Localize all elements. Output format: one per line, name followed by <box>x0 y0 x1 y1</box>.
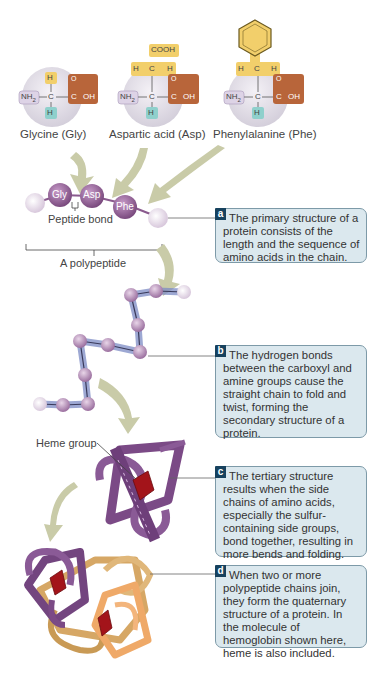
nh2-text: NH <box>21 92 33 101</box>
subscript-2: 2 <box>132 97 135 103</box>
asp-cooh: COOH <box>151 45 175 54</box>
asp-side-h-left: H <box>133 64 139 73</box>
phe-alpha-c: C <box>255 92 261 101</box>
quaternary-structure <box>28 551 215 655</box>
callout-a-primary-structure: aThe primary structure of a protein cons… <box>215 208 367 263</box>
asp-bottom-h: H <box>148 108 154 117</box>
gly-side-h: H <box>47 73 53 82</box>
asp-alpha-c: C <box>149 92 155 101</box>
phe-oh: OH <box>288 92 300 101</box>
gly-alpha-c: C <box>48 92 54 101</box>
phe-side-c: C <box>254 64 260 73</box>
amino-acid-label-phenylalanine: Phenylalanine (Phe) <box>213 128 317 140</box>
phe-o: O <box>276 75 281 82</box>
asp-amine: NH2 <box>120 92 135 103</box>
secondary-chain <box>33 284 215 412</box>
callout-badge-b: b <box>215 345 226 357</box>
arrow-to-quaternary <box>44 482 78 542</box>
asp-o: O <box>171 75 176 82</box>
arrow-to-tertiary <box>98 378 140 434</box>
bead-label-phe: Phe <box>116 201 134 212</box>
phe-bottom-h: H <box>254 108 260 117</box>
callout-d-quaternary-structure: dWhen two or more polypeptide chains joi… <box>215 565 367 648</box>
callout-badge-c: c <box>215 466 226 478</box>
asp-side-h-right: H <box>167 64 173 73</box>
phe-side-h-right: H <box>271 64 277 73</box>
callout-b-secondary-structure: bThe hydrogen bonds between the carboxyl… <box>215 345 367 438</box>
nh2-text: NH <box>226 92 238 101</box>
gly-o: O <box>71 75 76 82</box>
subscript-2: 2 <box>33 97 36 103</box>
gly-carboxyl-c: C <box>71 92 77 101</box>
phe-amine: NH2 <box>226 92 241 103</box>
polypeptide-label: A polypeptide <box>60 257 126 269</box>
callout-text-a: The primary structure of a protein consi… <box>223 212 359 263</box>
callout-text-b: The hydrogen bonds between the carboxyl … <box>223 349 352 439</box>
phe-carboxyl-c: C <box>276 92 282 101</box>
callout-badge-a: a <box>215 208 226 220</box>
gly-amine: NH2 <box>21 92 36 103</box>
subscript-2: 2 <box>238 97 241 103</box>
aspartic-acid-structure <box>118 44 199 127</box>
gly-oh: OH <box>83 92 95 101</box>
phe-side-h-left: H <box>238 64 244 73</box>
phenylalanine-structure <box>224 20 304 127</box>
bead-label-asp: Asp <box>83 189 100 200</box>
asp-side-c: C <box>149 64 155 73</box>
amino-acid-label-aspartic-acid: Aspartic acid (Asp) <box>109 128 206 140</box>
gly-bottom-h: H <box>47 108 53 117</box>
callout-text-c: The tertiary structure results when the … <box>223 470 353 560</box>
tertiary-structure <box>97 442 215 540</box>
amino-acid-label-glycine: Glycine (Gly) <box>20 128 86 140</box>
nh2-text: NH <box>120 92 132 101</box>
bead-label-gly: Gly <box>52 189 67 200</box>
callout-badge-d: d <box>215 565 226 577</box>
heme-group-label: Heme group <box>36 437 97 449</box>
callout-text-d: When two or more polypeptide chains join… <box>223 569 346 659</box>
callout-c-tertiary-structure: cThe tertiary structure results when the… <box>215 466 367 557</box>
asp-oh: OH <box>183 92 195 101</box>
asp-carboxyl-c: C <box>171 92 177 101</box>
peptide-bond-label: Peptide bond <box>48 213 113 225</box>
